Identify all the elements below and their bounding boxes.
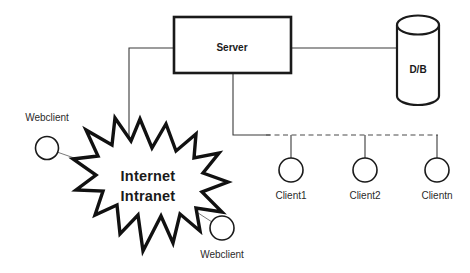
network-cloud-starburst [73, 118, 228, 251]
diagram-canvas: Server D/B Internet Intranet Webclient W… [0, 0, 470, 273]
client2-circle [353, 158, 377, 182]
network-cloud-label-internet: Internet [121, 168, 176, 184]
webclient-left-circle [36, 137, 59, 160]
network-cloud-label-intranet: Intranet [121, 188, 176, 204]
database-label: D/B [409, 64, 426, 75]
database-cylinder-top [397, 16, 439, 35]
database-cylinder [397, 16, 439, 106]
webclient-left-label: Webclient [25, 112, 69, 123]
client1-label: Client1 [275, 190, 307, 201]
client2-label: Client2 [349, 190, 381, 201]
network-diagram: Server D/B Internet Intranet Webclient W… [0, 0, 470, 273]
clientn-circle [425, 158, 449, 182]
webclient-bottom-circle [210, 216, 234, 240]
server-label: Server [216, 42, 247, 53]
webclient-bottom-label: Webclient [200, 249, 244, 260]
client1-circle [279, 158, 303, 182]
clientn-label: Clientn [421, 190, 452, 201]
connector-server-to-client-bus [233, 73, 270, 135]
